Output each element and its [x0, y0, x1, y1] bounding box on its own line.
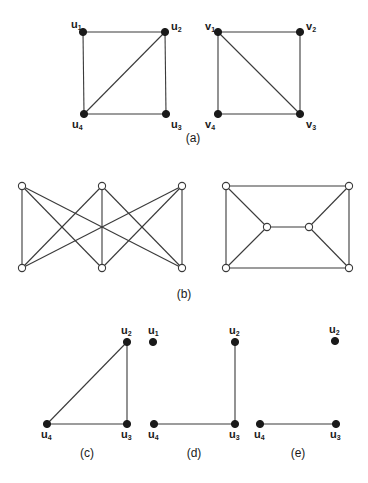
- vertex-label-u3: u3: [171, 118, 182, 131]
- panel-b-right-edges: [226, 186, 349, 268]
- vertex-labels-layer: u1u2u3u4v1v2v3v4u2u3u4u1u2u3u4u2u3u4: [41, 18, 341, 441]
- vertex-label-v3: v3: [306, 118, 316, 131]
- vertex-t1: [18, 182, 25, 189]
- vertex-label-u2: u2: [229, 324, 240, 337]
- vertex-label-u3: u3: [330, 428, 341, 441]
- vertex-u1: [149, 338, 156, 345]
- edge-u4-u2: [84, 32, 165, 114]
- vertex-u4: [256, 420, 263, 427]
- vertex-label-u4: u4: [41, 428, 52, 441]
- vertex-u3: [231, 420, 238, 427]
- vertex-label-u4: u4: [148, 428, 159, 441]
- caption-c: (c): [80, 446, 94, 460]
- vertex-u2: [161, 28, 168, 35]
- edge-u2-u3: [165, 32, 166, 114]
- vertex-label-u1: u1: [71, 18, 82, 31]
- caption-e: (e): [291, 446, 306, 460]
- vertex-u4: [80, 110, 87, 117]
- vertex-ml: [263, 223, 270, 230]
- graph-figure: u1u2u3u4v1v2v3v4u2u3u4u1u2u3u4u2u3u4 (a)…: [0, 0, 368, 483]
- edge-u4-u1: [83, 32, 84, 114]
- vertex-u4: [43, 420, 50, 427]
- captions-layer: (a) (b) (c) (d) (e): [80, 131, 305, 460]
- vertex-u2: [231, 338, 238, 345]
- vertex-u2: [123, 338, 130, 345]
- vertex-label-u4: u4: [254, 428, 265, 441]
- vertex-t2: [98, 182, 105, 189]
- panel-c-edges: [47, 342, 127, 424]
- vertex-v1: [214, 28, 221, 35]
- vertex-mr: [305, 223, 312, 230]
- caption-d: (d): [187, 446, 202, 460]
- vertex-label-v4: v4: [205, 118, 215, 131]
- edge-v1-v3: [218, 32, 300, 114]
- vertex-b3: [178, 264, 185, 271]
- vertex-label-v1: v1: [205, 20, 215, 33]
- edge-mr-tr: [309, 186, 349, 227]
- caption-a: (a): [186, 131, 201, 145]
- vertex-label-u2: u2: [121, 324, 132, 337]
- vertex-label-u2: u2: [171, 20, 182, 33]
- vertex-u2: [331, 337, 338, 344]
- vertex-b2: [98, 264, 105, 271]
- edges-layer: [22, 32, 349, 424]
- vertex-v3: [296, 110, 303, 117]
- panel-d-vertices: [149, 338, 238, 427]
- vertex-u3: [332, 420, 339, 427]
- vertex-t3: [178, 182, 185, 189]
- edge-u4-u2: [47, 342, 127, 424]
- vertex-label-u4: u4: [72, 118, 83, 131]
- panel-b-left-edges: [22, 186, 182, 268]
- vertex-br: [345, 264, 352, 271]
- vertex-v2: [296, 28, 303, 35]
- panel-e-vertices: [256, 337, 339, 427]
- vertex-u3: [123, 420, 130, 427]
- panel-a-right-edges: [218, 32, 300, 114]
- vertex-label-u3: u3: [229, 428, 240, 441]
- panel-d-edges: [154, 342, 235, 424]
- nodes-layer: [18, 28, 352, 427]
- vertex-v4: [214, 110, 221, 117]
- vertex-tr: [345, 182, 352, 189]
- vertex-label-u2: u2: [329, 323, 340, 336]
- vertex-label-v2: v2: [306, 20, 316, 33]
- edge-mr-br: [309, 227, 349, 268]
- edge-bl-ml: [226, 227, 267, 268]
- edge-tl-ml: [226, 186, 267, 227]
- vertex-u4: [150, 420, 157, 427]
- vertex-u3: [162, 110, 169, 117]
- vertex-label-u1: u1: [148, 324, 159, 337]
- panel-a-left-edges: [83, 32, 166, 114]
- vertex-tl: [222, 182, 229, 189]
- vertex-label-u3: u3: [121, 428, 132, 441]
- vertex-b1: [18, 264, 25, 271]
- vertex-bl: [222, 264, 229, 271]
- caption-b: (b): [177, 287, 192, 301]
